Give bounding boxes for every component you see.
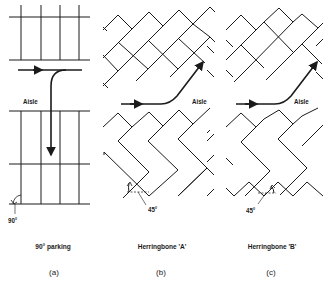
panel-b-herringbone-a (103, 7, 215, 205)
caption-b: Herringbone 'A' (125, 242, 199, 251)
caption-c: Herringbone 'B' (235, 242, 309, 251)
angle-label-c: 45° (246, 206, 255, 215)
angle-label-b: 45° (148, 205, 157, 214)
sub-label-a: (a) (34, 268, 74, 277)
aisle-label-a: Aisle (23, 97, 38, 106)
aisle-label-c: Aisle (294, 97, 309, 106)
panel-a-90-degree-parking (9, 5, 90, 214)
aisle-label-b: Aisle (192, 97, 207, 106)
angle-label-a: 90° (8, 216, 17, 225)
sub-label-b: (b) (141, 268, 181, 277)
caption-a: 90° parking (16, 242, 90, 251)
sub-label-c: (c) (251, 268, 291, 277)
panel-c-herringbone-b (226, 8, 323, 204)
